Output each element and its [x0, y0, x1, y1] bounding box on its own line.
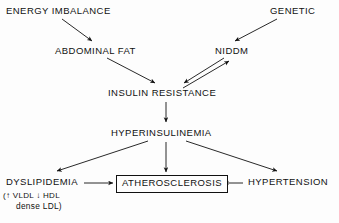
- edge-hyperinsulinemia-to-dyslipidemia: [57, 141, 148, 171]
- edge-hyperinsulinemia-to-hypertension: [186, 141, 277, 171]
- edge-energy-imbalance-to-abdominal-fat: [62, 19, 92, 41]
- edge-genetic-to-niddm: [235, 19, 277, 41]
- node-atherosclerosis[interactable]: ATHEROSCLEROSIS: [116, 175, 228, 193]
- edge-abdominal-fat-to-insulin-resistance: [107, 58, 155, 83]
- dyslipidemia-detail-line-1: (↑ VLDL ↓ HDL: [3, 191, 60, 200]
- dyslipidemia-detail: (↑ VLDL ↓ HDL dense LDL): [3, 190, 62, 211]
- node-energy-imbalance[interactable]: ENERGY IMBALANCE: [6, 6, 111, 17]
- node-dyslipidemia[interactable]: DYSLIPIDEMIA: [6, 177, 78, 188]
- dyslipidemia-detail-line-2: dense LDL): [3, 201, 62, 211]
- pathway-diagram: ENERGY IMBALANCE GENETIC ABDOMINAL FAT N…: [0, 0, 339, 223]
- node-hypertension[interactable]: HYPERTENSION: [248, 177, 328, 188]
- node-insulin-resistance[interactable]: INSULIN RESISTANCE: [108, 88, 216, 99]
- node-abdominal-fat[interactable]: ABDOMINAL FAT: [55, 46, 136, 57]
- node-genetic[interactable]: GENETIC: [270, 6, 315, 17]
- edge-niddm-to-insulin-resistance: [184, 58, 224, 83]
- node-hyperinsulinemia[interactable]: HYPERINSULINEMIA: [111, 128, 212, 139]
- node-niddm[interactable]: NIDDM: [215, 46, 248, 57]
- edge-insulin-resistance-to-niddm: [183, 61, 229, 88]
